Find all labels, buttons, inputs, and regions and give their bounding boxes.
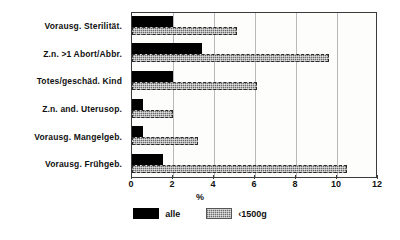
legend: alle ‹1500g [0,208,400,219]
plot-area [131,12,377,178]
category-label: Z.n. and. Uterusop. [42,104,122,114]
tick-label-2: 2 [169,179,174,189]
bar-low-birthweight [132,54,329,62]
tick-label-4: 4 [210,179,215,189]
bar-low-birthweight [132,110,173,118]
x-axis-ticks: 024681012 [131,179,377,193]
tick-label-12: 12 [372,179,382,189]
category-label: Vorausg. Mangelgeb. [34,132,122,142]
x-axis-label: % [0,192,400,202]
bar-alle [132,71,173,82]
bar-alle [132,43,202,54]
legend-label-alle: alle [165,209,180,219]
bar-chart: Vorausg. Sterilität.Z.n. >1 Abort/Abbr.T… [0,0,400,240]
bar-alle [132,154,163,165]
bar-alle [132,16,173,27]
category-axis-labels: Vorausg. Sterilität.Z.n. >1 Abort/Abbr.T… [0,12,126,178]
bar-group [132,124,378,152]
bar-group [132,151,378,179]
category-label: Z.n. >1 Abort/Abbr. [43,49,122,59]
bar-group [132,41,378,69]
tick-label-0: 0 [128,179,133,189]
legend-swatch-alle [133,208,159,219]
legend-label-low-birthweight: ‹1500g [238,209,267,219]
category-label: Vorausg. Sterilität. [45,21,122,31]
bar-group [132,13,378,41]
bar-group [132,68,378,96]
legend-item-low-birthweight: ‹1500g [206,208,267,219]
bar-low-birthweight [132,137,198,145]
tick-label-8: 8 [292,179,297,189]
bar-alle [132,99,143,110]
tick-label-10: 10 [331,179,341,189]
legend-item-alle: alle [133,208,180,219]
tick-label-6: 6 [251,179,256,189]
category-label: Vorausg. Frühgeb. [45,159,122,169]
bar-low-birthweight [132,82,257,90]
bar-low-birthweight [132,27,237,35]
bar-alle [132,126,143,137]
legend-swatch-low-birthweight [206,208,232,219]
bar-group [132,96,378,124]
category-label: Totes/geschäd. Kind [37,76,122,86]
bar-low-birthweight [132,165,347,173]
